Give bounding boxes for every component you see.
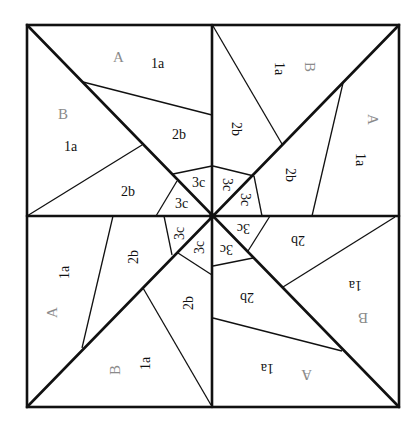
piece-label: 3c	[192, 241, 207, 254]
piece-label: 3c	[238, 193, 253, 206]
piece-label: 3c	[220, 178, 235, 191]
piece-label: 1a	[348, 278, 362, 293]
piece-label: 2b	[229, 122, 244, 136]
piece-label: 2b	[240, 290, 254, 305]
piece-label: 1a	[57, 265, 72, 279]
section-letter: B	[358, 310, 368, 326]
piece-label: 3c	[237, 221, 250, 236]
piece-label: 2b	[283, 168, 298, 182]
piece-label: 2b	[126, 250, 141, 264]
piece-label: 3c	[220, 242, 233, 257]
piece-label: 1a	[353, 153, 368, 167]
section-letter: A	[113, 49, 124, 65]
piece-label: 3c	[192, 175, 205, 190]
section-letter: B	[107, 365, 123, 375]
section-letter: A	[301, 367, 312, 383]
piece-label: 2b	[121, 184, 135, 199]
piece-label: 1a	[260, 361, 274, 376]
center-point	[209, 213, 215, 219]
section-letter: A	[365, 114, 381, 125]
piece-label: 3c	[175, 196, 188, 211]
quilt-block-diagram: A 1a 2b 3c B 1a 2b 3c B 1a 2b 3c A 1a 2b…	[0, 0, 418, 430]
piece-label: 2b	[291, 233, 305, 248]
section-letter: A	[44, 307, 60, 318]
piece-label: 1a	[138, 356, 153, 370]
piece-label: 1a	[64, 139, 78, 154]
section-letter: B	[302, 62, 318, 72]
piece-label: 3c	[172, 227, 187, 240]
section-letter: B	[58, 106, 68, 122]
piece-label: 1a	[272, 62, 287, 76]
piece-label: 2b	[172, 127, 186, 142]
piece-label: 2b	[181, 296, 196, 310]
piece-label: 1a	[151, 56, 165, 71]
